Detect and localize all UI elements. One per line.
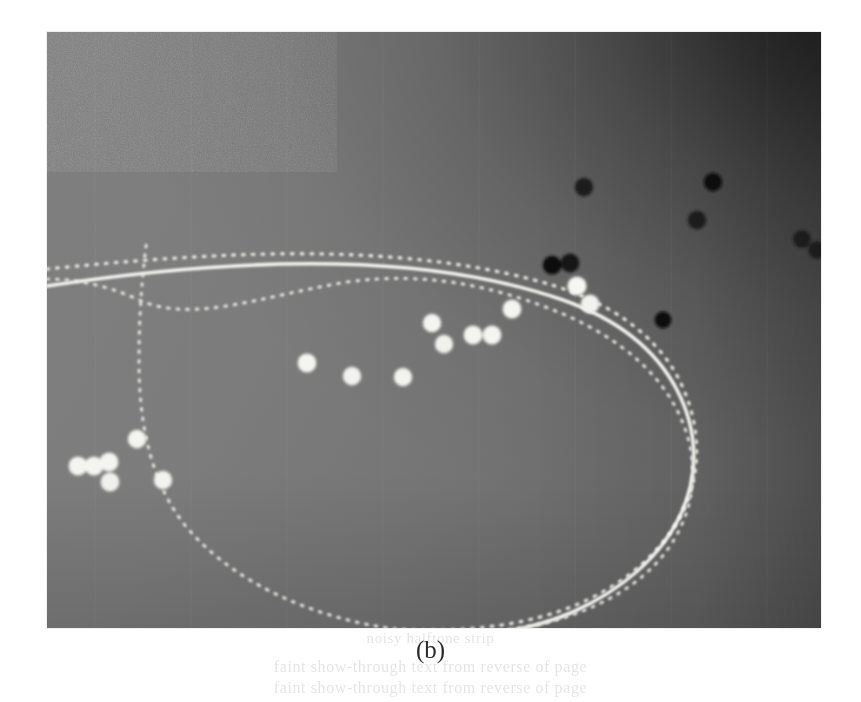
data-point-black [704, 173, 722, 191]
data-point-white [343, 367, 361, 385]
data-point-white [567, 276, 586, 295]
data-point-black [808, 241, 821, 259]
data-point-black [688, 211, 706, 229]
data-point-white [464, 326, 483, 345]
data-point-white [435, 335, 453, 353]
figure-panel [47, 32, 821, 628]
data-point-white [69, 457, 88, 476]
data-point-white [581, 295, 600, 314]
data-point-white [503, 300, 522, 319]
data-point-white [154, 471, 172, 489]
data-point-white [423, 314, 441, 332]
data-point-black [545, 258, 561, 274]
data-point-white [100, 453, 119, 472]
data-point-black [561, 254, 580, 273]
bleed-through-line-2: faint show-through text from reverse of … [0, 679, 861, 697]
figure-caption: (b) [0, 636, 861, 664]
data-point-white [394, 368, 412, 386]
data-point-black [655, 312, 672, 329]
scanned-page: noisy halftone strip [0, 0, 861, 702]
scatter-points-class-white [69, 276, 600, 491]
data-point-black [793, 230, 811, 248]
data-point-white [483, 326, 502, 345]
data-point-white [128, 430, 146, 448]
data-point-white [298, 354, 317, 373]
decision-boundary-curve [47, 264, 694, 628]
data-point-black [575, 178, 593, 196]
scatter-plot [47, 32, 821, 628]
data-point-white [101, 473, 120, 492]
